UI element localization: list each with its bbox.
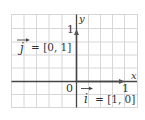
vector-j-label: j = [0, 1] [17,38,71,55]
y-axis-label: y [78,13,85,24]
origin-label: 0 [66,82,73,95]
unit-vector-diagram: y x 1 1 0 j = [0, 1] i = [1, 0] [0,0,145,120]
y-tick-label-1: 1 [67,23,74,36]
vector-i-name: i [84,92,88,106]
vector-j-name: j [17,41,24,55]
vector-i-value: = [1, 0] [95,93,135,105]
x-axis-label: x [131,70,137,81]
vector-j-value: = [0, 1] [31,41,71,53]
